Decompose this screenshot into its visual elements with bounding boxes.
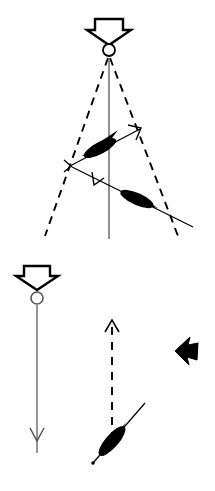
diagonal-endpoint-dot bbox=[91, 461, 95, 465]
figure-canvas bbox=[0, 0, 215, 491]
figure-background bbox=[0, 0, 215, 491]
figure-root bbox=[0, 0, 215, 491]
source-circle bbox=[103, 44, 115, 56]
source-circle-lower bbox=[31, 292, 43, 304]
